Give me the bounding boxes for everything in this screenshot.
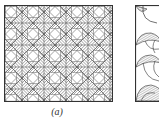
panel-a-basketweave: [4, 5, 113, 102]
crescent-pattern-graphic: [135, 5, 159, 102]
panel-b-crescents: [135, 5, 159, 102]
panel-a-caption: (a): [44, 106, 70, 117]
basketweave-pattern-graphic: [4, 5, 113, 102]
